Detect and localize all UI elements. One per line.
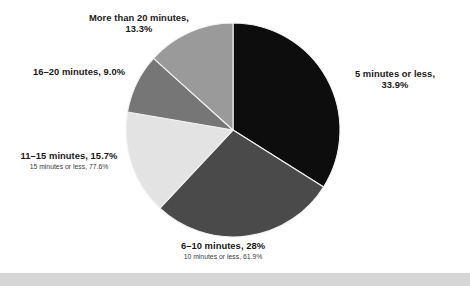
slice-label-line1: More than 20 minutes, xyxy=(63,12,215,23)
slice-label-line1: 11–15 minutes, 15.7% xyxy=(2,150,136,161)
slice-label-line1: 5 minutes or less, xyxy=(330,68,460,79)
slice-label-line1: 16–20 minutes, 9.0% xyxy=(12,66,146,77)
slice-label-6-10-minutes: 6–10 minutes, 28% 10 minutes or less, 61… xyxy=(142,240,304,261)
slice-label-line2: 13.3% xyxy=(63,23,215,34)
slice-label-16-20-minutes: 16–20 minutes, 9.0% xyxy=(12,66,146,77)
cumulative-annotation-10-minutes-or-less: 10 minutes or less, 61.9% xyxy=(142,253,304,261)
slice-label-line2: 33.9% xyxy=(330,79,460,90)
cumulative-annotation-15-minutes-or-less: 15 minutes or less, 77.6% xyxy=(2,163,136,171)
slice-label-5-minutes-or-less: 5 minutes or less, 33.9% xyxy=(330,68,460,90)
slice-label-11-15-minutes: 11–15 minutes, 15.7% 15 minutes or less,… xyxy=(2,150,136,171)
pie-slices-group xyxy=(126,23,340,237)
footer-band xyxy=(0,273,470,286)
pie-chart-figure: More than 20 minutes, 13.3% 16–20 minute… xyxy=(0,0,470,286)
slice-label-line1: 6–10 minutes, 28% xyxy=(142,240,304,251)
slice-label-more-than-20-minutes: More than 20 minutes, 13.3% xyxy=(63,12,215,34)
